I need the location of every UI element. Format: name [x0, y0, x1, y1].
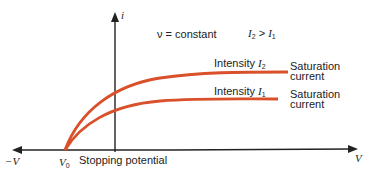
- intensity-1-label: Intensity I1: [214, 86, 266, 98]
- intensity-2-label: Intensity I2: [214, 58, 266, 70]
- x-axis-neg-label: −V: [5, 156, 19, 167]
- stopping-potential-label: Stopping potential: [79, 155, 167, 166]
- y-axis-label: i: [121, 10, 124, 21]
- saturation-current-1-label: Saturation current: [290, 89, 340, 109]
- v0-label: V0: [59, 157, 70, 169]
- x-axis-neg-arrow-icon: [12, 146, 22, 154]
- intensity-comparison-label: I2 > I1: [248, 28, 276, 40]
- photoelectric-diagram: i V −V ν = constant I2 > I1 V0 Stopping …: [0, 0, 367, 171]
- diagram-canvas: [0, 0, 367, 171]
- frequency-constant-label: ν = constant: [157, 29, 217, 40]
- saturation-current-2-label: Saturation current: [290, 61, 340, 81]
- curve-intensity-2: [65, 72, 288, 150]
- x-axis-label: V: [355, 153, 362, 164]
- x-axis-right: [172, 149, 352, 150]
- y-axis-arrow-icon: [111, 12, 119, 22]
